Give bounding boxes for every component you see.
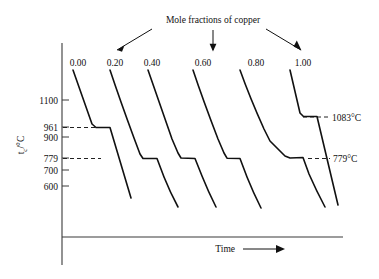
y-axis-title-unit: /°C	[16, 136, 26, 149]
title-arrow-to-0-60	[210, 30, 217, 52]
y-tick-label-779: 779	[44, 154, 59, 164]
y-tick-label-700: 700	[44, 166, 59, 176]
annotation-779c: 779°C	[333, 154, 357, 164]
svg-text:tc/°C: tc/°C	[16, 136, 29, 155]
chart-svg: Mole fractions of copper 1100 961 900 77…	[0, 0, 379, 279]
x-axis-label: Time	[215, 244, 235, 254]
cooling-curve-0-40	[148, 70, 216, 207]
title-arrow-group	[117, 29, 302, 52]
y-axis-ticks	[62, 100, 69, 186]
y-tick-label-900: 900	[44, 133, 59, 143]
y-tick-label-600: 600	[44, 182, 59, 192]
series-label-0-20: 0.20	[107, 58, 124, 68]
series-label-0-00: 0.00	[70, 58, 87, 68]
time-arrow	[243, 245, 285, 253]
series-label-0-40: 0.40	[144, 58, 161, 68]
series-label-0-60: 0.60	[195, 58, 212, 68]
cooling-curve-0-80	[240, 70, 325, 207]
series-label-0-80: 0.80	[248, 58, 265, 68]
y-tick-label-961: 961	[44, 123, 59, 133]
series-label-1-00: 1.00	[295, 58, 312, 68]
cooling-curve-0-20	[110, 70, 178, 207]
y-tick-label-1100: 1100	[39, 96, 58, 106]
cooling-curve-figure: Mole fractions of copper 1100 961 900 77…	[0, 0, 379, 279]
annotation-1083c: 1083°C	[332, 113, 361, 123]
title-arrow-to-0-20	[117, 29, 152, 52]
cooling-curve-0-60	[193, 70, 261, 208]
y-axis-title: tc/°C	[16, 136, 29, 155]
cooling-curve-0-00	[73, 70, 131, 198]
title-arrow-to-1-00	[266, 29, 302, 51]
chart-title: Mole fractions of copper	[166, 15, 261, 25]
